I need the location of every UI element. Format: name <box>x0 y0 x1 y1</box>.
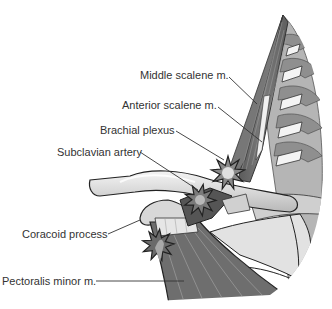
leader-brachial-plexus <box>176 131 224 160</box>
leader-coracoid-process <box>108 220 140 234</box>
label-brachial-plexus: Brachial plexus <box>100 124 175 136</box>
label-pectoralis-minor: Pectoralis minor m. <box>2 275 96 287</box>
label-subclavian-artery: Subclavian artery <box>57 146 142 158</box>
leader-middle-scalene <box>229 77 257 104</box>
label-middle-scalene: Middle scalene m. <box>140 69 229 81</box>
label-anterior-scalene: Anterior scalene m. <box>122 99 217 111</box>
illustration <box>0 0 332 309</box>
label-coracoid-process: Coracoid process <box>22 228 108 240</box>
anatomy-figure: Middle scalene m. Anterior scalene m. Br… <box>0 0 332 309</box>
